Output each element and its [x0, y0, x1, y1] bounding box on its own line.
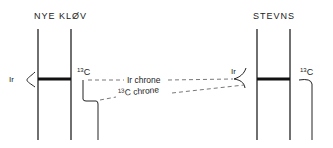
- nye-klov-title: NYE KLØV: [34, 11, 87, 21]
- c13-chrone-superscript: 13: [118, 87, 125, 94]
- correlation-diagram: [0, 0, 333, 148]
- c13-superscript: 13: [77, 67, 84, 73]
- nye-klov-c13-label: 13C: [77, 67, 90, 77]
- c13-base: C: [307, 67, 314, 77]
- nye-klov-c13-curve: [83, 80, 98, 140]
- stevns-ir-label: Ir: [231, 67, 236, 77]
- stevns-title: STEVNS: [253, 11, 295, 21]
- c13-chrone-dash-left: [100, 97, 116, 100]
- ir-chrone-dash-right: [168, 79, 233, 80]
- nye-klov-ir-peak-curve: [27, 72, 35, 87]
- stevns-c13-label: 13C: [300, 67, 313, 77]
- c13-base: C: [84, 67, 91, 77]
- stevns-c13-curve: [299, 80, 312, 141]
- c13-chrone-dash-right: [172, 85, 244, 93]
- c13-superscript: 13: [300, 67, 307, 73]
- ir-chrone-label: Ir chrone: [127, 75, 161, 85]
- nye-klov-ir-label: Ir: [9, 75, 14, 85]
